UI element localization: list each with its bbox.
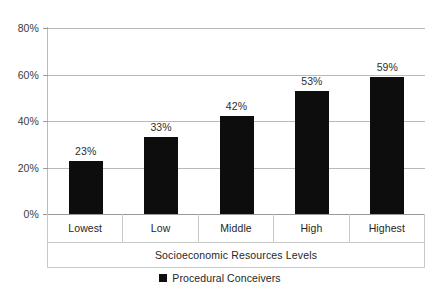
bar-value-label: 33% (150, 121, 171, 133)
category-label-highest: Highest (349, 214, 424, 242)
category-label-low: Low (122, 214, 197, 242)
x-category-labels: LowestLowMiddleHighHighest (47, 214, 425, 243)
bar-value-label: 23% (75, 145, 96, 157)
gridline-60%: 60% (48, 75, 425, 76)
bar-lowest: 23% (69, 161, 103, 214)
category-label-high: High (273, 214, 348, 242)
gridline-80%: 80% (48, 28, 425, 29)
x-axis-title: Socioeconomic Resources Levels (155, 249, 317, 261)
x-axis-title-band: Socioeconomic Resources Levels (47, 243, 425, 268)
y-tick-mark (43, 75, 48, 76)
y-tick-label: 60% (18, 69, 39, 81)
y-tick-label: 80% (18, 22, 39, 34)
y-tick-label: 20% (18, 162, 39, 174)
bar-value-label: 59% (377, 61, 398, 73)
legend-swatch-icon (159, 274, 167, 282)
category-label-lowest: Lowest (48, 214, 122, 242)
y-tick-label: 40% (18, 115, 39, 127)
bar-highest: 59% (370, 77, 404, 214)
bar-value-label: 42% (226, 100, 247, 112)
bar-high: 53% (295, 91, 329, 214)
y-tick-mark (43, 28, 48, 29)
y-tick-mark (43, 121, 48, 122)
bar-middle: 42% (220, 116, 254, 214)
y-tick-mark (43, 168, 48, 169)
chart-legend: Procedural Conceivers (0, 272, 440, 284)
bar-value-label: 53% (301, 75, 322, 87)
y-tick-label: 0% (24, 208, 39, 220)
plot-area: 0%20%40%60%80% 23%33%42%53%59% (48, 28, 425, 214)
legend-label: Procedural Conceivers (172, 272, 280, 284)
category-label-middle: Middle (198, 214, 273, 242)
bar-low: 33% (144, 137, 178, 214)
bar-chart: 0%20%40%60%80% 23%33%42%53%59% LowestLow… (0, 0, 440, 293)
